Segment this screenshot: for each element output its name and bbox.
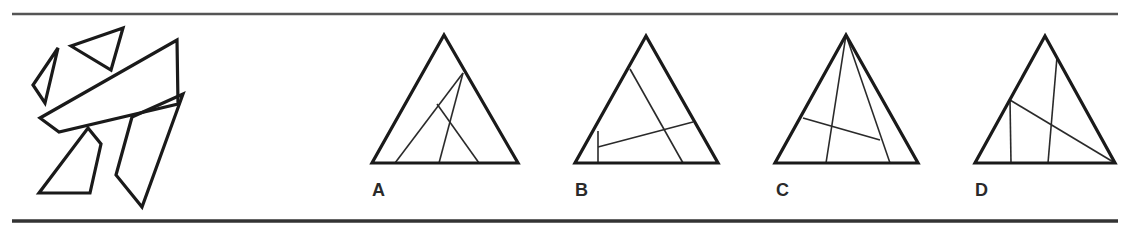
option-label-b[interactable]: B (575, 181, 588, 199)
inner-cut-line (1010, 100, 1011, 163)
option-label-a[interactable]: A (372, 181, 385, 199)
inner-cut-line (395, 73, 463, 163)
answer-options-group (372, 35, 1115, 163)
triangle-outline (975, 36, 1115, 163)
piece-small-left-triangle (33, 48, 58, 103)
piece-top-triangle (71, 28, 123, 70)
inner-cut-line (803, 118, 880, 140)
piece-long-band (40, 40, 178, 132)
piece-lower-left-quad (39, 128, 101, 193)
inner-cut-line (598, 122, 693, 147)
puzzle-canvas (0, 0, 1126, 233)
inner-cut-line (1048, 57, 1057, 163)
option-a-triangle[interactable] (372, 35, 518, 163)
inner-cut-line (437, 104, 479, 163)
scattered-pieces-group (33, 28, 183, 207)
triangle-outline (775, 35, 918, 163)
inner-cut-line (439, 73, 463, 163)
option-d-triangle[interactable] (975, 36, 1115, 163)
triangle-outline (372, 35, 518, 163)
option-label-c[interactable]: C (776, 181, 789, 199)
option-label-d[interactable]: D (975, 181, 988, 199)
puzzle-figure: A B C D (0, 0, 1126, 233)
option-c-triangle[interactable] (775, 35, 918, 163)
option-b-triangle[interactable] (575, 36, 718, 163)
inner-cut-line (630, 69, 683, 163)
